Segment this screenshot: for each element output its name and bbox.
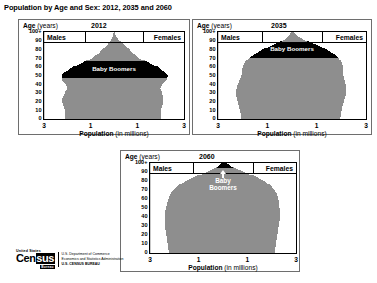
bar-age [65, 114, 114, 115]
bar-age [168, 200, 223, 201]
bar-age [63, 104, 114, 105]
bar-age [168, 199, 223, 200]
bar-age [64, 95, 114, 96]
bar-age [242, 73, 292, 74]
bar-age [292, 62, 342, 63]
bar-age [168, 249, 223, 250]
bar-age [240, 111, 292, 112]
bar-age [114, 111, 161, 112]
bar-age [166, 208, 223, 209]
bar-age [292, 94, 346, 95]
bar-age [292, 108, 342, 109]
bar-age [292, 60, 341, 61]
bar-age [223, 220, 280, 221]
bar-age [292, 73, 343, 74]
bar-boomer [114, 75, 168, 76]
bar-age [223, 236, 277, 237]
bar-age [165, 227, 223, 228]
bar-age [166, 235, 223, 236]
bar-age [63, 81, 114, 82]
bar-age [114, 79, 167, 80]
bar-age [65, 116, 114, 117]
bar-age [114, 89, 161, 90]
bar-age [236, 91, 292, 92]
logo-sus: sus [36, 253, 55, 264]
bar-age [114, 109, 161, 110]
legend-females: Females [266, 165, 293, 172]
bar-age [292, 97, 345, 98]
bar-age [292, 84, 346, 85]
bar-age [166, 232, 223, 233]
bar-age [242, 69, 292, 70]
bar-age [240, 112, 292, 113]
y-tick-label: 30 [209, 90, 215, 96]
bar-age [241, 118, 292, 119]
bar-boomer [254, 54, 292, 55]
bar-age [236, 94, 292, 95]
bar-boomer [223, 164, 229, 165]
bar-age [292, 78, 344, 79]
bar-age [292, 33, 295, 34]
y-tick-label: 0 [212, 116, 215, 122]
bar-age [292, 95, 346, 96]
bar-age [241, 116, 292, 117]
bar-age [236, 96, 292, 97]
logo-divider [58, 252, 59, 267]
bar-age [292, 104, 343, 105]
bar-age [63, 105, 114, 106]
legend-males: Males [153, 165, 172, 172]
bar-age [114, 58, 139, 59]
bar-age [292, 75, 343, 76]
bar-age [292, 100, 344, 101]
baby-boomers-annotation: BabyBoomers [150, 178, 296, 191]
bar-boomer [223, 165, 230, 166]
y-tick-label: 70 [35, 56, 41, 62]
bar-age [114, 118, 161, 119]
legend-males: Males [221, 34, 240, 41]
bar-boomer [292, 56, 337, 57]
bar-age [114, 34, 115, 35]
bar-age [292, 76, 344, 77]
bar-age [199, 175, 223, 176]
bar-age [167, 241, 223, 242]
bar-age [223, 224, 279, 225]
bar-age [223, 174, 249, 175]
bar-age [292, 98, 345, 99]
bar-age [114, 90, 161, 91]
bar-age [223, 232, 278, 233]
bar-age [223, 250, 275, 251]
bar-age [166, 233, 223, 234]
bar-age [97, 54, 115, 55]
bar-age [223, 226, 279, 227]
bar-age [165, 218, 223, 219]
bar-age [237, 87, 292, 88]
bar-age [167, 203, 223, 204]
bar-age [292, 89, 346, 90]
bar-age [292, 36, 298, 37]
bar-age [65, 116, 114, 117]
bar-age [114, 93, 162, 94]
bar-age [223, 241, 276, 242]
bar-age [67, 86, 114, 87]
bars-container [44, 32, 184, 119]
y-tick-label: 70 [141, 187, 147, 193]
bar-age [241, 113, 293, 114]
bar-age [62, 102, 114, 103]
bar-age [240, 78, 292, 79]
bar-age [165, 222, 223, 223]
bar-age [292, 93, 346, 94]
bar-age [114, 50, 130, 51]
bar-age [114, 104, 163, 105]
y-tick-label: 100+ [203, 29, 216, 35]
y-tick-label: 70 [209, 56, 215, 62]
bar-boomer [114, 73, 166, 74]
bar-age [223, 213, 280, 214]
bar-age [167, 237, 223, 238]
bar-age [169, 249, 223, 250]
bar-age [239, 80, 292, 81]
legend-females: Females [336, 34, 363, 41]
x-tick-label: 1 [265, 122, 269, 129]
bar-age [114, 101, 163, 102]
bar-age [114, 43, 123, 44]
bar-age [292, 110, 342, 111]
